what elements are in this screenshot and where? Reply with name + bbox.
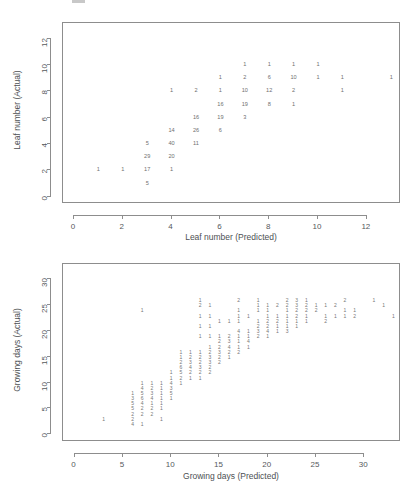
data-point-label: 4 xyxy=(131,421,134,426)
y-axis-tick-label: 20 xyxy=(40,330,49,339)
data-point-label: 6 xyxy=(219,128,222,134)
y-axis-tick-label: 10 xyxy=(40,64,49,73)
x-axis-tick xyxy=(171,215,172,219)
data-point-label: 1 xyxy=(160,406,163,411)
data-point-label: 10 xyxy=(290,75,296,81)
data-point-label: 1 xyxy=(170,370,173,375)
data-point-label: 2 xyxy=(286,303,289,308)
data-point-label: 5 xyxy=(141,390,144,395)
data-point-label: 6 xyxy=(179,365,182,370)
x-axis-tick xyxy=(315,453,316,457)
data-point-label: 1 xyxy=(266,308,269,313)
x-axis-tick-label: 4 xyxy=(168,222,172,231)
data-point-label: 19 xyxy=(217,115,223,121)
plot-area-growing-days: 1422553112246541122143211111111153411125… xyxy=(62,263,400,441)
data-point-label: 1 xyxy=(179,380,182,385)
data-point-label: 1 xyxy=(266,313,269,318)
data-point-label: 1 xyxy=(266,303,269,308)
data-point-label: 1 xyxy=(97,168,100,174)
data-point-label: 1 xyxy=(199,349,202,354)
x-axis-tick-label: 25 xyxy=(311,460,320,469)
data-point-label: 2 xyxy=(189,354,192,359)
data-point-label: 2 xyxy=(243,75,246,81)
data-point-label: 2 xyxy=(189,370,192,375)
data-point-label: 3 xyxy=(218,349,221,354)
data-point-label: 1 xyxy=(276,323,279,328)
x-axis-tick xyxy=(74,453,75,457)
x-axis-tick-label: 15 xyxy=(214,460,223,469)
x-axis-title-leaf-number: Leaf number (Predicted) xyxy=(185,232,277,242)
data-point-label: 2 xyxy=(208,349,211,354)
data-point-label: 2 xyxy=(208,370,211,375)
data-point-label: 2 xyxy=(150,385,153,390)
x-axis-tick xyxy=(122,215,123,219)
data-point-label: 11 xyxy=(193,141,199,147)
y-axis-tick-label: 6 xyxy=(40,117,49,121)
data-point-label: 2 xyxy=(199,303,202,308)
x-axis-tick xyxy=(170,453,171,457)
data-point-label: 3 xyxy=(286,329,289,334)
data-point-label: 20 xyxy=(168,154,174,160)
data-point-label: 5 xyxy=(179,370,182,375)
x-axis-tick xyxy=(366,215,367,219)
data-point-label: 2 xyxy=(199,354,202,359)
data-point-label: 2 xyxy=(334,303,337,308)
data-point-label: 1 xyxy=(292,62,295,68)
data-point-label: 2 xyxy=(218,344,221,349)
data-point-label: 2 xyxy=(218,354,221,359)
data-point-label: 1 xyxy=(199,313,202,318)
x-axis-tick xyxy=(219,215,220,219)
data-point-label: 1 xyxy=(170,89,173,95)
data-point-label: 1 xyxy=(286,308,289,313)
data-point-label: 1 xyxy=(199,375,202,380)
data-point-label: 1 xyxy=(353,308,356,313)
data-point-label: 1 xyxy=(237,344,240,349)
data-point-label: 40 xyxy=(168,141,174,147)
data-point-label: 3 xyxy=(208,360,211,365)
x-axis-tick-label: 0 xyxy=(71,222,75,231)
data-point-label: 4 xyxy=(266,329,269,334)
data-point-label: 1 xyxy=(219,89,222,95)
data-point-label: 1 xyxy=(341,75,344,81)
data-point-label: 1 xyxy=(344,313,347,318)
data-point-label: 16 xyxy=(217,102,223,108)
data-point-label: 2 xyxy=(292,89,295,95)
y-axis-tick-label: 25 xyxy=(40,304,49,313)
data-point-label: 1 xyxy=(382,303,385,308)
x-axis-tick xyxy=(73,215,74,219)
data-point-label: 4 xyxy=(228,344,231,349)
chart-growing-days: 1422553112246541122143211111111153411125… xyxy=(0,252,420,502)
data-point-label: 5 xyxy=(131,406,134,411)
data-point-label: 1 xyxy=(218,318,221,323)
data-points-leaf-number: 1151729512040141112616261916113191021812… xyxy=(63,23,399,202)
data-point-label: 1 xyxy=(150,401,153,406)
data-point-label: 1 xyxy=(141,308,144,313)
data-point-label: 2 xyxy=(344,298,347,303)
data-point-label: 3 xyxy=(208,354,211,359)
data-point-label: 1 xyxy=(237,318,240,323)
x-axis-tick-label: 5 xyxy=(120,460,124,469)
data-point-label: 12 xyxy=(266,89,272,95)
data-point-label: 26 xyxy=(193,128,199,134)
data-point-label: 2 xyxy=(305,303,308,308)
data-point-label: 1 xyxy=(257,308,260,313)
data-point-label: 1 xyxy=(237,339,240,344)
data-point-label: 3 xyxy=(228,339,231,344)
data-point-label: 1 xyxy=(286,323,289,328)
data-point-label: 4 xyxy=(141,385,144,390)
data-point-label: 1 xyxy=(257,303,260,308)
data-point-label: 1 xyxy=(237,334,240,339)
data-point-label: 2 xyxy=(141,411,144,416)
x-axis-tick xyxy=(122,453,123,457)
x-axis-tick-label: 30 xyxy=(359,460,368,469)
data-point-label: 2 xyxy=(315,308,318,313)
x-axis-tick-label: 8 xyxy=(266,222,270,231)
data-point-label: 5 xyxy=(170,390,173,395)
x-axis-tick xyxy=(267,453,268,457)
data-point-label: 2 xyxy=(179,360,182,365)
y-axis-tick-label: 12 xyxy=(40,38,49,47)
data-point-label: 1 xyxy=(160,380,163,385)
data-point-label: 1 xyxy=(218,334,221,339)
data-point-label: 1 xyxy=(247,329,250,334)
data-point-label: 1 xyxy=(160,416,163,421)
